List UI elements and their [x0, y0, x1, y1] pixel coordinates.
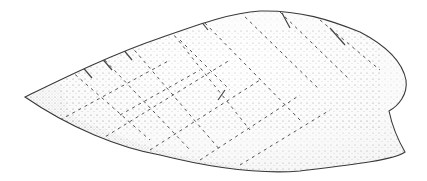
- stipple-illustration: [0, 0, 427, 181]
- seed-drawing: [0, 0, 427, 181]
- stipple-texture: [0, 0, 427, 181]
